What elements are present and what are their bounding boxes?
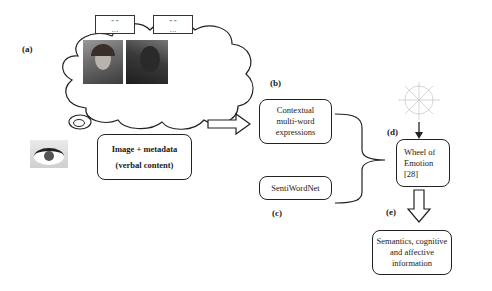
contextual-line3: expressions [276, 127, 316, 138]
label-a: (a) [22, 44, 33, 54]
wheel-line2: Emotion [404, 158, 433, 169]
avatar-face-image [83, 40, 123, 84]
image-metadata-line1: Image + metadata [112, 144, 178, 155]
wheel-line3: [28] [404, 169, 418, 180]
wheel-of-emotion-thumbnail-icon [398, 82, 440, 120]
contextual-expressions-box: Contextual multi-word expressions [259, 99, 332, 144]
label-b: (b) [270, 78, 281, 88]
image-metadata-box: Image + metadata (verbal content) [97, 134, 192, 180]
speech-bubble-1: " " … [95, 15, 135, 34]
thought-bubble-small [74, 120, 85, 127]
down-arrowhead-icon [415, 132, 423, 139]
sentiwordnet-box: SentiWordNet [259, 176, 332, 200]
image-metadata-line2: (verbal content) [116, 160, 174, 171]
semantics-line3: information [392, 258, 432, 269]
label-c: (c) [272, 208, 282, 218]
wheel-line1: Wheel of [404, 147, 435, 158]
speech-bubble-1-text: " " … [111, 18, 118, 34]
sentiwordnet-line1: SentiWordNet [271, 183, 319, 194]
wheel-of-emotion-box: Wheel of Emotion [28] [396, 139, 450, 187]
person-face-image [126, 40, 168, 84]
label-d: (d) [387, 127, 398, 137]
hollow-down-arrow-icon [408, 190, 430, 222]
speech-bubble-2: " " … [153, 15, 193, 34]
merge-brace-icon [335, 114, 385, 203]
speech-bubble-2-text: " " … [169, 18, 176, 34]
contextual-line1: Contextual [277, 105, 314, 116]
eye-image [30, 140, 68, 168]
contextual-line2: multi-word [276, 116, 314, 127]
semantics-box: Semantics, cognitive and affective infor… [372, 230, 452, 275]
label-e: (e) [386, 207, 396, 217]
semantics-line2: and affective [390, 247, 434, 258]
semantics-line1: Semantics, cognitive [377, 236, 448, 247]
